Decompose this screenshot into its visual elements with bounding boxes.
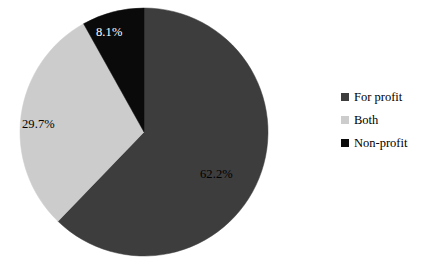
legend-item-both[interactable]: Both [341, 113, 407, 127]
slice-label-both: 29.7% [22, 117, 55, 132]
slice-label-non-profit: 8.1% [96, 25, 122, 40]
pie-chart-figure: 62.2% 29.7% 8.1% For profit Both Non-pro… [0, 0, 434, 269]
pie-slices [20, 8, 268, 256]
legend-item-for-profit[interactable]: For profit [341, 90, 407, 104]
legend-label-for-profit: For profit [354, 91, 402, 104]
legend-swatch-both [341, 116, 349, 124]
legend-swatch-for-profit [341, 93, 349, 101]
legend-item-non-profit[interactable]: Non-profit [341, 136, 407, 150]
legend-label-both: Both [354, 114, 378, 127]
slice-label-for-profit: 62.2% [200, 167, 233, 182]
legend-label-non-profit: Non-profit [354, 137, 407, 150]
legend-swatch-non-profit [341, 139, 349, 147]
chart-legend: For profit Both Non-profit [341, 90, 407, 150]
